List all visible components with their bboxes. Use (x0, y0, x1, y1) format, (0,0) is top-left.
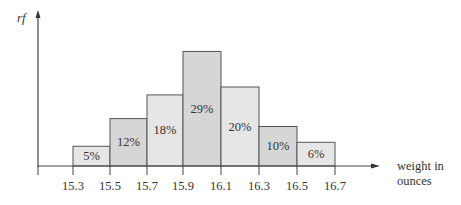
bar-value-label: 5% (83, 149, 100, 163)
x-axis-tick-label: 15.9 (172, 179, 194, 193)
bar-value-label: 20% (229, 120, 252, 134)
y-axis-arrow-icon (36, 10, 41, 18)
x-axis-arrow-icon (371, 164, 380, 169)
x-axis-tick-labels: 15.315.515.715.916.116.316.516.7 (62, 179, 346, 193)
x-axis-tick-label: 16.3 (248, 179, 270, 193)
histogram-chart: 5%12%18%29%20%10%6% rf weight in ounces … (0, 0, 461, 205)
x-axis-tick-label: 16.7 (324, 179, 346, 193)
x-axis-tick-label: 16.1 (210, 179, 232, 193)
x-axis-tick-label: 16.5 (286, 179, 308, 193)
x-axis-tick-label: 15.5 (99, 179, 121, 193)
x-axis-tick-label: 15.3 (62, 179, 84, 193)
x-axis-tick-label: 15.7 (136, 179, 158, 193)
bar-value-label: 12% (117, 135, 140, 149)
x-axis-label: weight in ounces (397, 159, 447, 188)
y-axis-label: rf (17, 10, 28, 25)
bar-value-label: 10% (267, 139, 290, 153)
bar-value-label: 18% (154, 123, 177, 137)
bar-value-label: 6% (308, 147, 325, 161)
bar-value-label: 29% (191, 102, 214, 116)
x-axis-ticks (73, 166, 335, 175)
